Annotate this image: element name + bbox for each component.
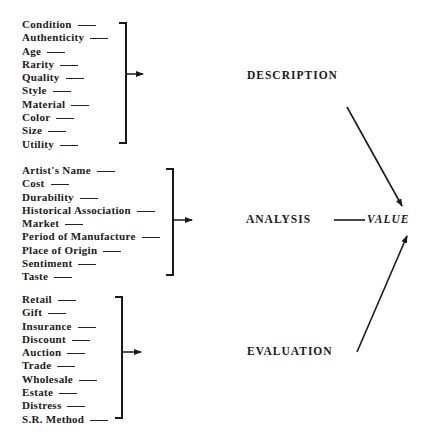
analysis-bracket (166, 169, 192, 275)
description-to-value-arrow (347, 107, 402, 206)
evaluation-bracket (115, 297, 141, 418)
evaluation-label: EVALUATION (247, 345, 333, 357)
value-label: VALUE (367, 213, 410, 225)
description-bracket (119, 23, 143, 143)
description-label: DESCRIPTION (247, 69, 338, 81)
analysis-label: ANALYSIS (246, 213, 311, 225)
evaluation-to-value-arrow (357, 236, 407, 352)
